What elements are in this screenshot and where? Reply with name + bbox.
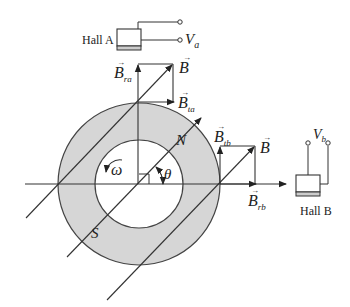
diagram-canvas: Hall A Va Hall B Vb B → Bra → Bta → Btb …	[0, 0, 350, 307]
svg-text:Bra: Bra	[114, 64, 132, 84]
va-label: Va	[185, 31, 199, 50]
hall-b-vector-decomposition	[220, 146, 256, 184]
hall-b-label: Hall B	[300, 204, 332, 218]
theta-label: θ	[164, 166, 172, 182]
hall-a-sensor	[117, 20, 182, 50]
omega-label: ω	[111, 161, 122, 178]
b-vector-label-a: B →	[179, 53, 191, 76]
svg-text:→: →	[181, 88, 189, 97]
svg-text:Btb: Btb	[214, 128, 231, 148]
svg-text:Brb: Brb	[248, 192, 266, 212]
north-pole-label: N	[175, 132, 187, 148]
b-ra-label: Bra →	[114, 58, 132, 84]
hall-b-sensor	[296, 141, 330, 196]
hall-a-vector-decomposition	[138, 64, 174, 102]
svg-text:→: →	[251, 186, 259, 195]
b-ta-label: Bta →	[178, 88, 195, 114]
svg-text:→: →	[263, 133, 271, 142]
b-vector-label-b: B →	[260, 133, 271, 156]
svg-text:Bta: Bta	[178, 94, 195, 114]
svg-text:→: →	[217, 122, 225, 131]
b-rb-label: Brb →	[248, 186, 266, 212]
vb-label: Vb	[313, 127, 327, 144]
svg-text:→: →	[183, 53, 191, 62]
south-pole-label: S	[91, 225, 99, 241]
svg-text:→: →	[117, 58, 125, 67]
hall-a-label: Hall A	[82, 33, 114, 47]
b-tb-label: Btb →	[214, 122, 231, 148]
